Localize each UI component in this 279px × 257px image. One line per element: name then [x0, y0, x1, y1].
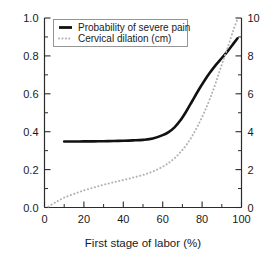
y-axis-left-tick-label: 0.6	[23, 88, 38, 100]
legend-label-probability-of-severe-pain: Probability of severe pain	[78, 22, 190, 33]
y-axis-right-tick-label: 4	[248, 126, 254, 138]
legend-label-cervical-dilation: Cervical dilation (cm)	[78, 33, 171, 44]
y-axis-right-ticks: 0246810	[236, 12, 260, 214]
x-axis-tick-label: 0	[41, 213, 47, 225]
series-line-probability-of-severe-pain	[64, 38, 237, 141]
y-axis-right-tick-label: 2	[248, 164, 254, 176]
y-axis-left-tick-label: 0.4	[23, 126, 38, 138]
y-axis-right-tick-label: 8	[248, 50, 254, 62]
x-axis-title: First stage of labor (%)	[85, 237, 201, 249]
series-line-cervical-dilation-cm	[48, 19, 237, 207]
y-axis-left-tick-label: 0.8	[23, 50, 38, 62]
x-axis-tick-label: 80	[196, 213, 208, 225]
y-axis-left-tick-label: 1.0	[23, 12, 38, 24]
x-axis-tick-label: 40	[117, 213, 129, 225]
y-axis-left-tick-label: 0.0	[23, 202, 38, 214]
x-axis-tick-label: 60	[157, 213, 169, 225]
data-series-group	[48, 19, 237, 207]
y-axis-left-tick-label: 0.2	[23, 164, 38, 176]
chart-legend: Probability of severe pain Cervical dila…	[54, 20, 191, 47]
y-axis-right-tick-label: 10	[248, 12, 260, 24]
chart-plot-area: 0.00.20.40.60.81.0 0246810 020406080100 …	[0, 0, 279, 257]
chart-figure: 0.00.20.40.60.81.0 0246810 020406080100 …	[0, 0, 279, 257]
x-axis-tick-label: 100	[232, 213, 250, 225]
x-axis-tick-label: 20	[78, 213, 90, 225]
y-axis-left-ticks: 0.00.20.40.60.81.0	[23, 12, 50, 214]
x-axis-ticks: 020406080100	[41, 202, 250, 225]
y-axis-right-tick-label: 6	[248, 88, 254, 100]
